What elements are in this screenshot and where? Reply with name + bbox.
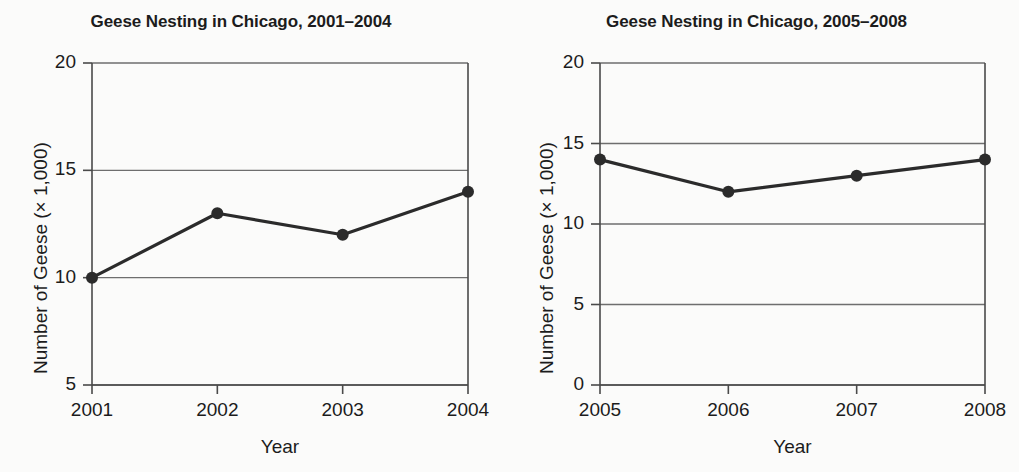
data-point-marker — [979, 154, 991, 166]
y-tick-label: 0 — [522, 373, 584, 395]
x-tick-label: 2001 — [47, 399, 137, 421]
y-axis-title-right: Number of Geese (× 1,000) — [536, 142, 558, 374]
y-tick-label: 20 — [522, 51, 584, 73]
data-point-marker — [851, 170, 863, 182]
data-point-marker — [462, 186, 474, 198]
data-point-marker — [337, 229, 349, 241]
y-tick-label: 10 — [14, 266, 76, 288]
x-tick-label: 2005 — [555, 399, 645, 421]
data-point-marker — [86, 272, 98, 284]
data-series-line — [92, 192, 468, 278]
y-tick-label: 10 — [522, 212, 584, 234]
y-tick-label: 20 — [14, 51, 76, 73]
y-tick-label: 5 — [522, 293, 584, 315]
y-tick-label: 5 — [14, 373, 76, 395]
data-point-marker — [594, 154, 606, 166]
data-point-marker — [211, 207, 223, 219]
x-tick-label: 2006 — [683, 399, 773, 421]
figure-container: Geese Nesting in Chicago, 2001–2004 Numb… — [0, 0, 1019, 472]
chart-panel-right: Geese Nesting in Chicago, 2005–2008 Numb… — [510, 0, 1019, 472]
y-tick-label: 15 — [522, 132, 584, 154]
x-tick-label: 2003 — [298, 399, 388, 421]
y-tick-label: 15 — [14, 158, 76, 180]
x-axis-title-left: Year — [92, 436, 468, 458]
x-tick-label: 2004 — [423, 399, 513, 421]
data-series-line — [600, 160, 985, 192]
chart-panel-left: Geese Nesting in Chicago, 2001–2004 Numb… — [0, 0, 510, 472]
x-tick-label: 2007 — [812, 399, 902, 421]
x-tick-label: 2008 — [940, 399, 1019, 421]
data-point-marker — [722, 186, 734, 198]
x-axis-title-right: Year — [600, 436, 985, 458]
x-tick-label: 2002 — [172, 399, 262, 421]
